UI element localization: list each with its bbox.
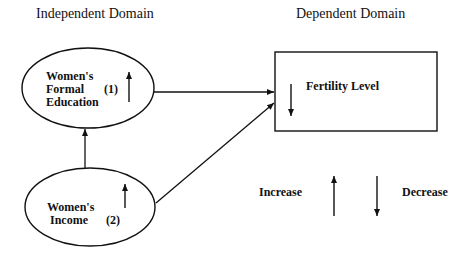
- income-label-line2: Income: [50, 214, 88, 227]
- independent-domain-title: Independent Domain: [36, 6, 154, 22]
- edge-income-to-fertility: [156, 103, 274, 203]
- dependent-domain-title: Dependent Domain: [296, 6, 405, 22]
- fertility-label: Fertility Level: [306, 80, 379, 93]
- education-node-ellipse: [22, 48, 154, 128]
- income-number: (2): [106, 214, 120, 227]
- legend-decrease-label: Decrease: [402, 185, 448, 200]
- legend-increase-label: Increase: [259, 185, 302, 200]
- education-label-line3: Education: [46, 96, 99, 109]
- education-number: (1): [104, 83, 118, 96]
